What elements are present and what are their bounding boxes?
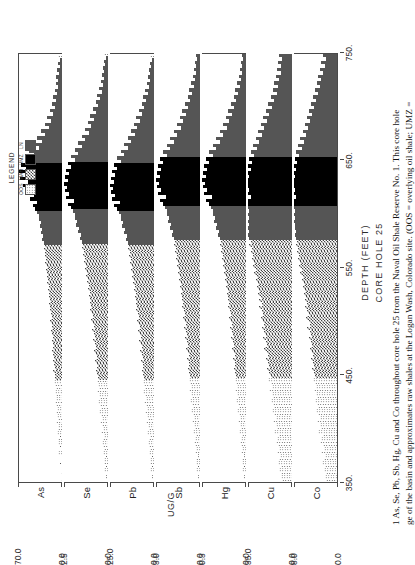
data-bar <box>104 448 108 451</box>
data-bar <box>263 313 292 316</box>
legend: LEGEND OOSMAHUMZLN <box>8 140 36 195</box>
data-bar <box>103 428 108 431</box>
data-bar <box>150 462 154 465</box>
data-bar <box>152 58 154 61</box>
data-bar <box>53 360 62 363</box>
data-bar <box>303 275 337 278</box>
data-bar <box>52 340 62 343</box>
caption-line-2: ge of the basin and approximates raw sha… <box>403 0 415 525</box>
data-bar <box>305 306 337 309</box>
data-bar <box>98 383 108 386</box>
data-bar <box>207 168 246 171</box>
data-bar <box>179 278 200 281</box>
data-bar <box>228 299 246 302</box>
data-bar <box>151 65 154 68</box>
data-bar <box>149 445 154 448</box>
data-bar <box>195 61 200 64</box>
data-bar <box>249 188 292 191</box>
data-bar <box>97 94 108 97</box>
y-tick-mark <box>110 483 111 487</box>
data-bar <box>106 479 108 482</box>
data-bar <box>277 427 292 430</box>
data-bar <box>295 223 337 226</box>
data-bar <box>102 417 108 420</box>
data-bar <box>241 78 246 81</box>
data-bar <box>50 109 62 112</box>
data-bar <box>51 329 62 332</box>
data-bar <box>52 316 62 319</box>
data-bar <box>141 360 154 363</box>
data-bar <box>262 327 292 330</box>
data-bar <box>93 339 108 342</box>
data-bar <box>96 370 108 373</box>
data-bar <box>136 292 154 295</box>
data-bar <box>101 431 108 434</box>
data-bar <box>311 334 337 337</box>
data-bar <box>128 136 154 139</box>
data-bar <box>220 237 246 240</box>
data-bar <box>187 334 200 337</box>
data-bar <box>281 472 292 475</box>
data-bar <box>142 112 154 115</box>
data-bar <box>46 258 62 261</box>
data-bar <box>144 106 154 109</box>
data-bar <box>139 109 154 112</box>
data-bar <box>181 292 200 295</box>
data-bar <box>39 218 62 221</box>
data-bar <box>232 330 246 333</box>
data-bar <box>148 92 154 95</box>
data-bar <box>248 199 292 202</box>
data-bar <box>47 265 62 268</box>
data-bar <box>261 316 292 319</box>
data-bar <box>313 95 337 98</box>
data-trace <box>248 53 292 482</box>
data-bar <box>142 370 154 373</box>
data-bar <box>296 230 337 233</box>
data-bar <box>189 88 200 91</box>
data-bar <box>256 137 292 140</box>
data-bar <box>274 99 292 102</box>
data-bar <box>216 147 246 150</box>
data-bar <box>174 237 200 240</box>
y-tick-label: 3.0 <box>151 553 161 565</box>
data-bar <box>99 410 108 413</box>
data-bar <box>228 109 246 112</box>
data-bar <box>188 351 200 354</box>
data-bar <box>82 135 108 138</box>
data-bar <box>130 262 154 265</box>
data-bar <box>131 129 154 132</box>
data-bar <box>237 409 246 412</box>
data-bar <box>81 233 108 236</box>
data-bar <box>89 284 108 287</box>
data-bar <box>60 468 62 471</box>
data-bar <box>316 392 337 395</box>
data-bar <box>254 154 292 157</box>
data-bar <box>142 102 154 105</box>
data-bar <box>243 475 246 478</box>
data-bar <box>297 251 337 254</box>
data-bar <box>157 171 200 174</box>
data-bar <box>177 254 200 257</box>
data-bar <box>296 151 337 154</box>
data-bar <box>264 126 292 129</box>
data-bar <box>324 447 337 450</box>
data-bar <box>41 221 63 224</box>
data-bar <box>71 165 108 168</box>
data-bar <box>58 62 62 65</box>
data-bar <box>242 461 246 464</box>
data-bar <box>214 220 246 223</box>
data-bar <box>125 228 154 231</box>
data-bar <box>82 145 108 148</box>
data-bar <box>240 85 246 88</box>
data-bar <box>202 178 246 181</box>
data-bar <box>53 95 62 98</box>
data-bar <box>105 465 108 468</box>
data-bar <box>49 302 62 305</box>
data-bar <box>281 465 292 468</box>
data-bar <box>195 78 200 81</box>
data-bar <box>157 185 200 188</box>
data-bar <box>56 397 62 400</box>
data-bar <box>306 316 337 319</box>
data-bar <box>193 406 200 409</box>
data-bar <box>310 323 337 326</box>
